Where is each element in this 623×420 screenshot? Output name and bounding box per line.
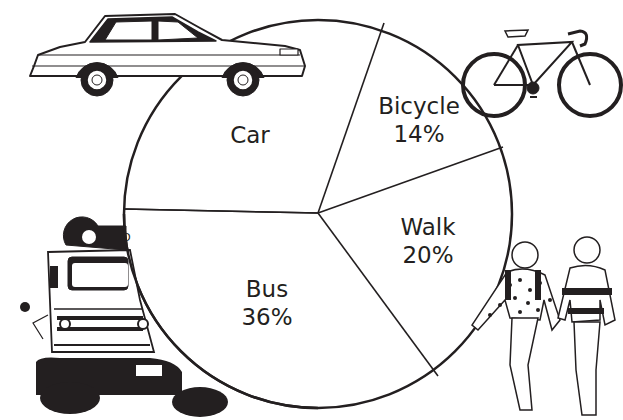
bus-label: Bus: [222, 275, 312, 303]
pie-chart-figure: SCHO: [0, 0, 623, 420]
bicycle-label: Bicycle: [364, 92, 474, 120]
bus-percentage: 36%: [222, 303, 312, 331]
slice-label-bus: Bus 36%: [222, 275, 312, 331]
bicycle-illustration: [463, 30, 621, 116]
walk-percentage: 20%: [383, 241, 473, 269]
car-label: Car: [208, 121, 292, 149]
slice-label-car: Car: [208, 121, 292, 149]
walk-label: Walk: [383, 213, 473, 241]
slice-label-bicycle: Bicycle 14%: [364, 92, 474, 148]
slice-label-walk: Walk 20%: [383, 213, 473, 269]
bicycle-percentage: 14%: [364, 120, 474, 148]
